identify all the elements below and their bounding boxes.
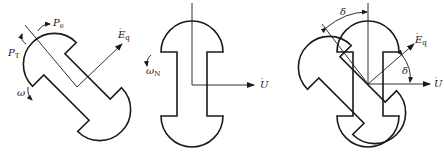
figure-generator-rotor: Pe PT ω Eq · [7,17,143,153]
pt-label: PT [7,47,20,60]
omega-n-label: ωN [146,65,160,78]
displaced-axis-line [322,24,368,84]
delta-angle-arc-top [326,12,367,28]
u-dot-accent: · [261,75,263,83]
delta-label-top: δ [340,6,346,17]
eq-phasor-arrow [77,44,122,87]
u-dot-accent: · [435,74,437,82]
figure-synchronous-rotor: ωN U · [146,3,269,147]
pe-rotation-arrow-icon [38,24,50,31]
omega-rotation-arrow-icon [28,87,32,100]
eq-dot-accent: · [119,25,121,33]
eq-dot-accent: · [416,30,418,38]
figure-rotor-overlay: δ δ Eq · U · [286,3,443,156]
delta-label-right: δ [402,65,408,76]
rotor-diagram: Pe PT ω Eq · ωN U · δ δ Eq · U · [0,0,444,165]
omega-label: ω [17,87,25,98]
pt-rotation-arrow-icon [22,34,27,44]
pe-label: Pe [52,17,64,30]
